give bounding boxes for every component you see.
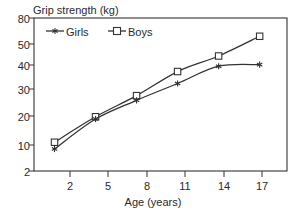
grip-strength-chart: Grip strength (kg) Age (years) 80 50 40 … [0,0,306,217]
data-point-marker [256,33,262,39]
data-point-marker [175,80,180,86]
legend [46,28,126,35]
data-point-marker [51,139,57,145]
data-point-marker [174,68,180,74]
girls-line [55,64,260,149]
girls-markers [52,62,262,153]
series-girls [52,62,262,153]
legend-square-icon [114,28,121,35]
chart-canvas [0,0,306,217]
series-boys [51,33,263,145]
data-point-marker [215,53,221,59]
x-axis-ticks [70,171,262,177]
y-axis-ticks [29,18,34,171]
